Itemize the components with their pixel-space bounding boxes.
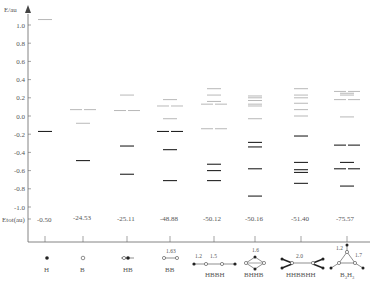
b-atom-icon [162, 256, 165, 259]
etot-bb: -48.88 [160, 215, 179, 223]
etot-b: -24.53 [73, 214, 92, 222]
etot-hbbh: -50.12 [203, 215, 222, 223]
h-atom-icon [45, 256, 49, 260]
y-tick-label: 0.8 [16, 40, 25, 48]
b-atom-icon [81, 256, 85, 260]
molecule-b: B [80, 256, 85, 274]
energy-levels [38, 20, 360, 197]
h-atom-icon [322, 258, 325, 261]
x-axis [28, 236, 370, 242]
y-tick-label: 1.0 [16, 22, 25, 30]
b-atom-icon [311, 261, 314, 264]
y-tick-label: 0.4 [16, 76, 25, 84]
b-atom-icon [345, 250, 348, 253]
bond-length-label: 1.7 [355, 252, 362, 258]
y-tick-label: 0.2 [16, 94, 25, 102]
y-tick-label: -0.8 [14, 185, 26, 193]
bond-length-label: 1.6 [252, 247, 259, 253]
y-tick-label: -1.0 [14, 204, 26, 212]
molecule-hbbh: 1.2 1.5 HBBH [192, 253, 236, 279]
b-atom-icon [337, 261, 340, 264]
energy-level-diagram: E/au 1.00.80.60.40.20.0-0.2-0.4-0.6-0.8-… [0, 0, 373, 286]
b-atom-icon [262, 261, 265, 264]
bond-length-label: 1.63 [166, 248, 176, 254]
molecule-label-h: H [44, 266, 49, 274]
molecule-bb: 1.63 BB [162, 248, 178, 274]
b-atom-icon [244, 261, 247, 264]
h-atom-icon [322, 267, 325, 270]
molecule-label-hb: HB [123, 266, 133, 274]
molecule-label-hbbh: HBBH [205, 271, 224, 279]
molecule-hhbbhh: 2.0 HHBBHH [281, 253, 325, 279]
b-atom-icon [220, 262, 223, 265]
molecule-label-bb: BB [165, 266, 175, 274]
y-tick-label: -0.2 [14, 131, 26, 139]
y-axis-label: E/au [4, 6, 17, 14]
y-tick-label: 0.6 [16, 58, 25, 66]
b-atom-icon [290, 261, 293, 264]
etot-bhhb: -50.16 [245, 215, 264, 223]
h-atom-icon [126, 256, 130, 260]
bond-length-label: 1.5 [210, 253, 217, 259]
b-atom-icon [353, 261, 356, 264]
y-tick-label: -0.6 [14, 167, 26, 175]
h-atom-icon [233, 262, 236, 265]
h-atom-icon [281, 267, 284, 270]
molecule-label-b3h3: B3H3 [340, 271, 355, 280]
molecule-b3h3: 1.2 1.7 B3H3 [330, 244, 365, 280]
h-atom-icon [281, 258, 284, 261]
h-atom-icon [362, 267, 365, 270]
molecule-h: H [44, 256, 49, 274]
etot-axis-label: Etot(au) [2, 216, 26, 224]
h-atom-icon [330, 267, 333, 270]
b-atom-icon [122, 256, 125, 259]
molecule-bhhb: 1.6 BHHB [244, 247, 266, 279]
etot-values: -0.50 -24.53 -25.11 -48.88 -50.12 -50.16… [37, 214, 355, 224]
b-atom-icon [175, 256, 178, 259]
y-tick-label: 0.0 [16, 113, 25, 121]
molecule-label-hhbbhh: HHBBHH [286, 271, 316, 279]
axis-arrow-icon [25, 5, 31, 13]
bond-length-label: 1.2 [336, 245, 343, 251]
h-atom-icon [254, 256, 257, 259]
h-atom-icon [192, 262, 195, 265]
etot-hb: -25.11 [117, 215, 135, 223]
bond-length-label: 1.2 [195, 253, 202, 259]
b-atom-icon [204, 262, 207, 265]
h-atom-icon [346, 244, 349, 247]
etot-hhbbhh: -51.40 [291, 215, 310, 223]
y-tick-label: -0.4 [14, 149, 26, 157]
etot-b3h3: -75.57 [336, 215, 355, 223]
bond-length-label: 2.0 [296, 253, 303, 259]
etot-h: -0.50 [37, 216, 52, 224]
y-axis: E/au 1.00.80.60.40.20.0-0.2-0.4-0.6-0.8-… [4, 5, 31, 242]
molecule-label-bhhb: BHHB [244, 271, 264, 279]
molecule-label-b: B [80, 266, 85, 274]
molecule-hb: HB [121, 256, 134, 274]
